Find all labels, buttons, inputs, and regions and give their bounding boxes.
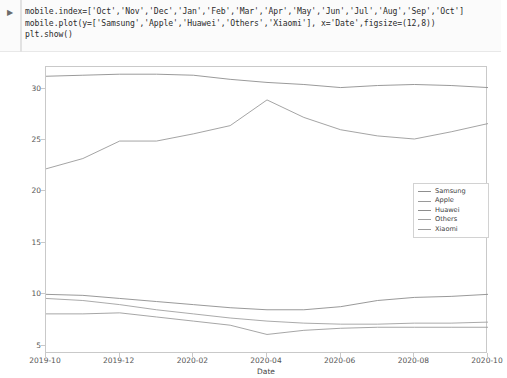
x-tick-label: 2019-10 [15, 356, 75, 365]
code-line-3[interactable]: plt.show() [25, 29, 497, 41]
legend-item-xiaomi: Xiaomi [418, 225, 484, 234]
series-line-apple [46, 100, 488, 169]
run-cell-icon[interactable]: ▶ [7, 9, 13, 52]
chart-legend: SamsungAppleHuaweiOthersXiaomi [413, 183, 489, 238]
code-line-2[interactable]: mobile.plot(y=['Samsung','Apple','Huawei… [25, 18, 497, 30]
legend-item-apple: Apple [418, 196, 484, 205]
x-axis-label: Date [45, 367, 487, 376]
y-tick-mark [41, 88, 45, 89]
notebook-code-cell[interactable]: ▶ mobile.index=['Oct','Nov','Dec','Jan',… [0, 0, 501, 52]
series-line-xiaomi [46, 313, 488, 335]
x-tick-mark [45, 353, 46, 357]
x-tick-mark [413, 353, 414, 357]
y-tick-mark [41, 293, 45, 294]
legend-line-icon [418, 219, 431, 220]
y-tick-label: 30 [11, 83, 41, 92]
x-tick-mark [119, 353, 120, 357]
x-tick-label: 2020-02 [162, 356, 222, 365]
y-tick-mark [41, 242, 45, 243]
matplotlib-figure: 51015202530 2019-102019-122020-022020-04… [0, 52, 501, 378]
legend-item-samsung: Samsung [418, 187, 484, 196]
x-tick-mark [192, 353, 193, 357]
legend-line-icon [418, 229, 431, 230]
x-tick-mark [487, 353, 488, 357]
x-tick-label: 2020-06 [310, 356, 370, 365]
legend-item-label: Apple [435, 196, 454, 205]
legend-item-label: Others [435, 215, 457, 224]
x-tick-label: 2020-10 [457, 356, 507, 365]
y-tick-label: 25 [11, 135, 41, 144]
legend-line-icon [418, 201, 431, 202]
code-line-1[interactable]: mobile.index=['Oct','Nov','Dec','Jan','F… [25, 6, 497, 18]
legend-line-icon [418, 191, 431, 192]
x-tick-label: 2019-12 [89, 356, 149, 365]
legend-item-label: Huawei [435, 206, 459, 215]
y-tick-label: 15 [11, 237, 41, 246]
x-tick-label: 2020-08 [383, 356, 443, 365]
legend-item-label: Samsung [435, 187, 466, 196]
legend-item-huawei: Huawei [418, 206, 484, 215]
y-tick-label: 20 [11, 186, 41, 195]
x-tick-label: 2020-04 [236, 356, 296, 365]
y-tick-mark [41, 345, 45, 346]
cell-gutter: ▶ [0, 0, 20, 52]
x-tick-mark [266, 353, 267, 357]
legend-line-icon [418, 210, 431, 211]
legend-item-others: Others [418, 215, 484, 224]
cell-input-bar [20, 0, 22, 52]
legend-item-label: Xiaomi [435, 225, 458, 234]
series-line-samsung [46, 74, 488, 87]
y-tick-mark [41, 190, 45, 191]
y-tick-label: 5 [11, 340, 41, 349]
series-line-huawei [46, 294, 488, 309]
y-tick-mark [41, 139, 45, 140]
x-tick-mark [340, 353, 341, 357]
series-line-others [46, 298, 488, 324]
y-tick-label: 10 [11, 289, 41, 298]
